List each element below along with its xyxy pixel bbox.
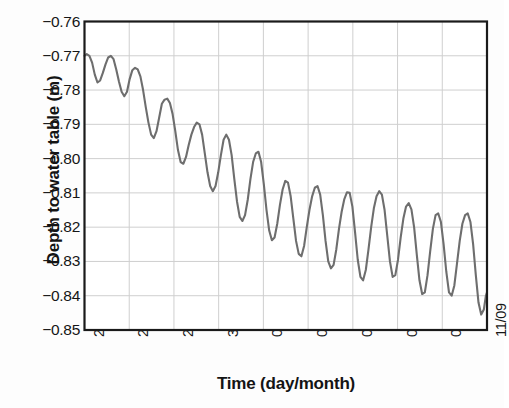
figure-container: Depth to water table (m) Time (day/month… xyxy=(0,0,504,408)
chart-plot-area xyxy=(0,0,504,408)
